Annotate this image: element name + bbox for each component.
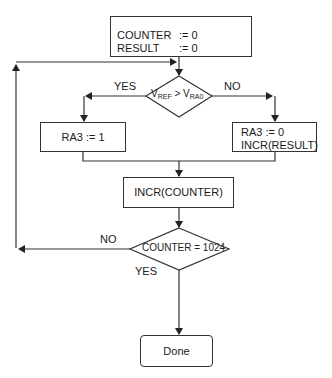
incr-counter-box: INCR(COUNTER)	[123, 177, 234, 208]
decision-1-yes-label: YES	[114, 80, 136, 92]
right-var: V	[183, 88, 190, 99]
init-assign-result: := 0	[179, 42, 198, 55]
right-sub: RA0	[190, 93, 204, 100]
operator: >	[174, 88, 180, 99]
init-var-counter: COUNTER	[117, 29, 179, 42]
decision-2-condition: COUNTER = 1024	[142, 242, 225, 253]
left-var: V	[151, 88, 158, 99]
done-text: Done	[163, 345, 189, 358]
init-assign-counter: := 0	[179, 29, 198, 42]
left-sub: REF	[158, 93, 172, 100]
decision-1-condition: VREF > VRA0	[151, 88, 203, 100]
init-line-counter: COUNTER := 0	[117, 29, 251, 42]
init-line-result: RESULT := 0	[117, 42, 251, 55]
yes-action-text: RA3 := 1	[61, 131, 104, 144]
init-var-result: RESULT	[117, 42, 179, 55]
incr-counter-text: INCR(COUNTER)	[134, 186, 223, 199]
decision-2-yes-label: YES	[135, 265, 157, 277]
decision-1-no-label: NO	[224, 80, 241, 92]
yes-action-box: RA3 := 1	[40, 122, 126, 152]
init-box: COUNTER := 0 RESULT := 0	[110, 16, 252, 57]
done-box: Done	[140, 335, 213, 367]
merge-line	[83, 151, 275, 161]
no-action-line1: RA3 := 0	[241, 126, 316, 139]
decision-2-no-label: NO	[100, 233, 117, 245]
no-action-box: RA3 := 0 INCR(RESULT)	[232, 122, 317, 152]
no-action-line2: INCR(RESULT)	[241, 139, 316, 152]
